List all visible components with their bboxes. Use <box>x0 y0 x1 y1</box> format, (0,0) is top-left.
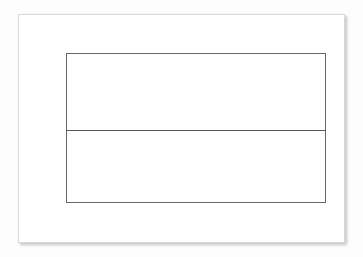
two-time-series-plot <box>19 15 344 242</box>
plot-card <box>18 14 345 243</box>
bonds-3-year-panel <box>67 131 325 202</box>
top-panel-frame <box>67 54 325 131</box>
bottom-panel-frame <box>67 131 325 202</box>
screenshot-root <box>0 0 363 257</box>
employment-rate-panel <box>67 54 325 131</box>
